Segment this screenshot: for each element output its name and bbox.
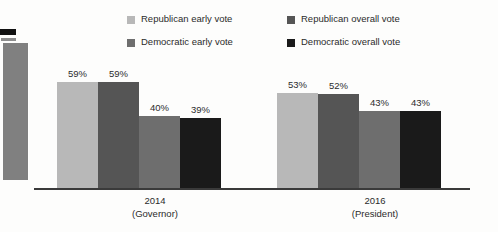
bar bbox=[318, 94, 359, 188]
legend-item-label: Democratic overall vote bbox=[301, 36, 400, 47]
bar-value-label: 59% bbox=[68, 69, 87, 79]
grouped-bar-chart: Republican early vote Republican overall… bbox=[0, 0, 498, 232]
category-office: (President) bbox=[293, 207, 457, 220]
legend-item-democratic-early-vote: Democratic early vote bbox=[127, 36, 287, 47]
bar-value-label: 40% bbox=[150, 103, 169, 113]
legend-swatch-icon bbox=[127, 16, 135, 24]
bar bbox=[277, 93, 318, 188]
x-axis-category-2014: 2014 (Governor) bbox=[73, 194, 237, 220]
bar-value-label: 52% bbox=[329, 81, 348, 91]
legend-item-label: Republican overall vote bbox=[301, 13, 400, 24]
bar-value-label: 59% bbox=[109, 69, 128, 79]
category-office: (Governor) bbox=[73, 207, 237, 220]
page-edge-gray-mark bbox=[1, 38, 16, 41]
bar-slot: 43% bbox=[359, 62, 400, 188]
bar-slot: 59% bbox=[57, 62, 98, 188]
x-axis-category-labels: 2014 (Governor) 2016 (President) bbox=[0, 194, 498, 226]
page-edge-black-mark bbox=[0, 29, 16, 35]
legend-item-republican-early-vote: Republican early vote bbox=[127, 13, 287, 24]
bar-slot: 43% bbox=[400, 62, 441, 188]
category-year: 2016 bbox=[364, 195, 385, 206]
bar-value-label: 39% bbox=[191, 105, 210, 115]
bar bbox=[180, 118, 221, 188]
plot-area: 59% 59% 40% 39% 53% 52% bbox=[0, 60, 498, 190]
bar-value-label: 53% bbox=[288, 80, 307, 90]
legend-item-republican-overall-vote: Republican overall vote bbox=[287, 13, 457, 24]
bar-group-2016: 53% 52% 43% 43% bbox=[277, 62, 441, 188]
bar-value-label: 43% bbox=[370, 98, 389, 108]
legend-item-label: Republican early vote bbox=[141, 13, 232, 24]
legend-swatch-icon bbox=[127, 39, 135, 47]
bar bbox=[98, 82, 139, 188]
bar-value-label: 43% bbox=[411, 98, 430, 108]
category-year: 2014 bbox=[144, 195, 165, 206]
bar bbox=[57, 82, 98, 188]
bar-group-2014: 59% 59% 40% 39% bbox=[57, 62, 221, 188]
x-axis-baseline bbox=[34, 188, 470, 190]
x-axis-category-2016: 2016 (President) bbox=[293, 194, 457, 220]
bar bbox=[139, 116, 180, 188]
bar bbox=[359, 111, 400, 188]
bar-slot: 52% bbox=[318, 62, 359, 188]
bar-slot: 53% bbox=[277, 62, 318, 188]
legend-item-label: Democratic early vote bbox=[141, 36, 233, 47]
bar-slot: 40% bbox=[139, 62, 180, 188]
legend-item-democratic-overall-vote: Democratic overall vote bbox=[287, 36, 457, 47]
chart-legend: Republican early vote Republican overall… bbox=[127, 13, 457, 59]
legend-swatch-icon bbox=[287, 39, 295, 47]
bar-slot: 39% bbox=[180, 62, 221, 188]
bar bbox=[400, 111, 441, 188]
legend-swatch-icon bbox=[287, 16, 295, 24]
bar-slot: 59% bbox=[98, 62, 139, 188]
